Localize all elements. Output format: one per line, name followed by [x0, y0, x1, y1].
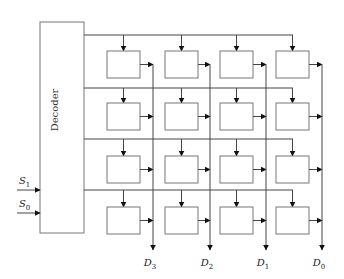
- input-label: S0: [19, 198, 30, 212]
- select-inputs: S1S0: [17, 175, 40, 213]
- memory-cell: [220, 103, 253, 130]
- memory-cell: [276, 207, 309, 234]
- input-label: S1: [19, 175, 30, 189]
- memory-cell: [220, 51, 253, 78]
- output-label: D0: [312, 257, 326, 271]
- output-label: D3: [143, 257, 157, 271]
- memory-cell: [220, 156, 253, 183]
- memory-cells: [107, 35, 322, 234]
- decoder-label: Decoder: [49, 88, 60, 131]
- memory-cell: [276, 103, 309, 130]
- decoder-box: [40, 22, 84, 233]
- memory-cell: [165, 51, 198, 78]
- output-label: D1: [256, 257, 270, 271]
- memory-cell: [107, 51, 140, 78]
- decoder-block: Decoder: [40, 22, 84, 233]
- output-label: D2: [200, 257, 214, 271]
- memory-cell: [276, 156, 309, 183]
- memory-cell: [276, 51, 309, 78]
- memory-cell: [107, 103, 140, 130]
- memory-cell: [107, 207, 140, 234]
- memory-cell: [165, 103, 198, 130]
- memory-cell: [107, 156, 140, 183]
- register-array-diagram: Decoder D3D2D1D0 S1S0: [0, 0, 344, 279]
- memory-cell: [165, 207, 198, 234]
- memory-cell: [165, 156, 198, 183]
- memory-cell: [220, 207, 253, 234]
